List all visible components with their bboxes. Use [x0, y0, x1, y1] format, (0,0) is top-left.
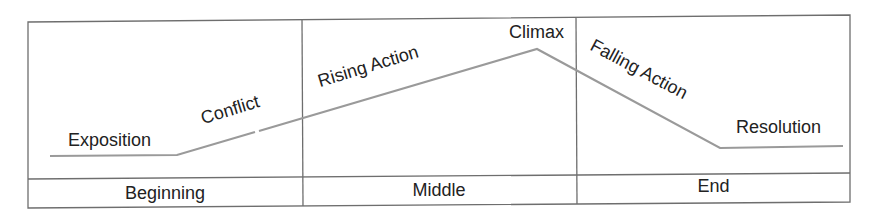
section-beginning: Beginning — [28, 184, 302, 202]
section-middle: Middle — [302, 181, 576, 199]
label-exposition: Exposition — [68, 131, 151, 149]
section-end: End — [577, 177, 850, 195]
label-climax: Climax — [509, 23, 564, 41]
divider-beginning-middle — [302, 20, 303, 206]
label-resolution: Resolution — [736, 118, 821, 136]
plot-diagram: Exposition Conflict Rising Action Climax… — [0, 0, 877, 218]
